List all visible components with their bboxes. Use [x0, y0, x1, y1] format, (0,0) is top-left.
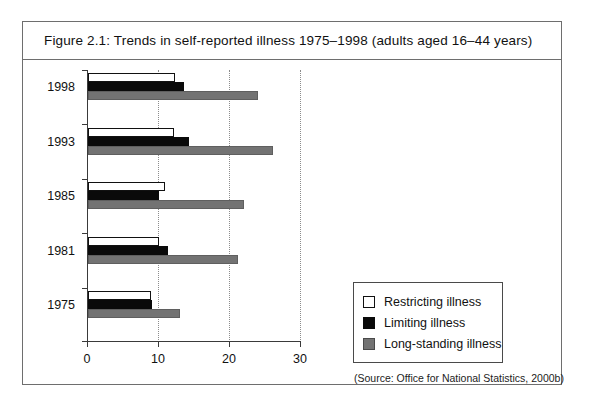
y-axis-tick — [82, 233, 87, 234]
bar-group-1985: 1985 — [88, 182, 300, 209]
y-tick-label-1985: 1985 — [47, 189, 75, 203]
bar-limiting-1985 — [88, 191, 159, 200]
x-axis-tick-0 — [87, 342, 88, 347]
legend-swatch-limiting-icon — [363, 317, 375, 329]
bar-restricting-1981 — [88, 237, 159, 246]
bar-chart: 0 10 20 30 1998 1993 1985 — [87, 70, 300, 342]
bar-longstanding-1985 — [88, 200, 244, 209]
x-axis-tick-10 — [158, 342, 159, 347]
bar-restricting-1975 — [88, 291, 151, 300]
y-tick-label-1975: 1975 — [47, 298, 75, 312]
bar-limiting-1975 — [88, 300, 152, 309]
y-axis-tick — [82, 288, 87, 289]
legend-item-limiting: Limiting illness — [363, 312, 493, 333]
plot-area: 0 10 20 30 1998 1993 1985 — [23, 60, 561, 384]
y-axis-tick — [82, 124, 87, 125]
x-tick-label-0: 0 — [84, 352, 91, 366]
bar-restricting-1998 — [88, 73, 175, 82]
legend-label-longstanding: Long-standing illness — [384, 337, 501, 351]
x-tick-label-10: 10 — [151, 352, 165, 366]
bar-longstanding-1981 — [88, 255, 238, 264]
bar-group-1975: 1975 — [88, 291, 300, 318]
bar-group-1993: 1993 — [88, 128, 300, 155]
y-tick-label-1981: 1981 — [47, 244, 75, 258]
x-tick-label-30: 30 — [293, 352, 307, 366]
figure-title-bar: Figure 2.1: Trends in self-reported illn… — [23, 22, 561, 60]
chart-legend: Restricting illness Limiting illness Lon… — [353, 282, 503, 363]
legend-label-restricting: Restricting illness — [384, 295, 481, 309]
y-tick-label-1998: 1998 — [47, 80, 75, 94]
legend-item-restricting: Restricting illness — [363, 291, 493, 312]
page-title: Figure 2.1: Trends in self-reported illn… — [23, 33, 532, 48]
bar-group-1981: 1981 — [88, 237, 300, 264]
y-axis-tick — [82, 179, 87, 180]
bar-limiting-1981 — [88, 246, 168, 255]
x-axis-tick-20 — [229, 342, 230, 347]
y-axis-tick — [82, 70, 87, 71]
gridline-30 — [300, 70, 301, 342]
bar-limiting-1998 — [88, 82, 184, 91]
bar-restricting-1993 — [88, 128, 174, 137]
bar-longstanding-1993 — [88, 146, 273, 155]
x-axis-tick-30 — [300, 342, 301, 347]
y-tick-label-1993: 1993 — [47, 135, 75, 149]
source-note: (Source: Office for National Statistics,… — [354, 372, 564, 384]
legend-swatch-longstanding-icon — [363, 338, 375, 350]
bar-longstanding-1998 — [88, 91, 258, 100]
x-tick-label-20: 20 — [222, 352, 236, 366]
bar-limiting-1993 — [88, 137, 189, 146]
x-axis — [86, 341, 301, 342]
figure-frame: Figure 2.1: Trends in self-reported illn… — [22, 21, 562, 385]
legend-swatch-restricting-icon — [363, 296, 375, 308]
bar-group-1998: 1998 — [88, 73, 300, 100]
bar-restricting-1985 — [88, 182, 165, 191]
legend-label-limiting: Limiting illness — [384, 316, 465, 330]
bar-longstanding-1975 — [88, 309, 180, 318]
legend-item-longstanding: Long-standing illness — [363, 333, 493, 354]
